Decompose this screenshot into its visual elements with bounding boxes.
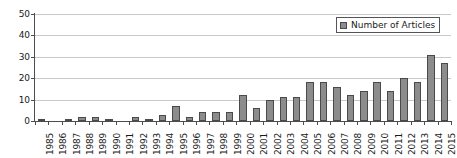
x-tick-label-1994: 1994 [166, 133, 175, 155]
bar-1998 [212, 112, 220, 121]
x-tick-label-2010: 2010 [381, 133, 390, 155]
bar-1989 [92, 117, 100, 121]
x-tick-mark-2014 [424, 122, 425, 125]
x-tick-label-2013: 2013 [421, 133, 430, 155]
x-tick-label-2006: 2006 [328, 133, 337, 155]
x-tick-label-2015: 2015 [448, 133, 457, 155]
bar-1997 [199, 112, 207, 121]
x-tick-mark-2001 [250, 122, 251, 125]
x-tick-label-1992: 1992 [140, 133, 149, 155]
x-tick-label-1999: 1999 [234, 133, 243, 155]
x-tick-label-2001: 2001 [260, 133, 269, 155]
bar-2012 [400, 78, 408, 121]
bar-1996 [186, 117, 194, 121]
x-tick-mark-1997 [196, 122, 197, 125]
y-tick-label-20: 20 [4, 74, 30, 83]
bar-1992 [132, 117, 140, 121]
y-axis-line [34, 13, 35, 122]
gridline-30 [35, 57, 451, 58]
x-tick-mark-1996 [183, 122, 184, 125]
bar-2008 [347, 95, 355, 121]
x-tick-mark-1995 [169, 122, 170, 125]
bar-chart: 01020304050 1985198619871988198919901991… [0, 0, 457, 158]
x-tick-mark-2015 [438, 122, 439, 125]
gridline-20 [35, 78, 451, 79]
x-tick-label-1993: 1993 [153, 133, 162, 155]
x-tick-mark-2003 [277, 122, 278, 125]
bar-2013 [414, 82, 422, 121]
y-tick-label-0: 0 [4, 117, 30, 126]
bar-2000 [239, 95, 247, 121]
x-tick-label-2014: 2014 [435, 133, 444, 155]
x-tick-mark-2009 [357, 122, 358, 125]
gridline-40 [35, 35, 451, 36]
bar-2009 [360, 91, 368, 121]
bar-2001 [253, 108, 261, 121]
x-tick-mark-2000 [236, 122, 237, 125]
x-tick-mark-2013 [411, 122, 412, 125]
x-tick-label-1989: 1989 [99, 133, 108, 155]
x-tick-mark-2010 [370, 122, 371, 125]
bar-1993 [145, 119, 153, 121]
legend-swatch-icon [340, 22, 347, 29]
x-tick-mark-1986 [48, 122, 49, 125]
bar-1994 [159, 115, 167, 121]
legend-label: Number of Articles [351, 21, 435, 30]
x-axis-line [34, 121, 452, 122]
x-tick-mark-1994 [156, 122, 157, 125]
x-tick-label-2011: 2011 [395, 133, 404, 155]
x-tick-mark-end [451, 122, 452, 125]
chart-legend: Number of Articles [336, 17, 440, 33]
x-tick-label-2009: 2009 [368, 133, 377, 155]
bar-1987 [65, 119, 73, 121]
bar-1990 [105, 119, 113, 121]
x-tick-label-2004: 2004 [301, 133, 310, 155]
bar-2004 [293, 97, 301, 121]
x-tick-mark-2006 [317, 122, 318, 125]
bar-2010 [373, 82, 381, 121]
x-tick-label-1985: 1985 [46, 133, 55, 155]
x-tick-label-1997: 1997 [207, 133, 216, 155]
gridline-50 [35, 14, 451, 15]
x-tick-label-2005: 2005 [314, 133, 323, 155]
x-tick-label-2002: 2002 [274, 133, 283, 155]
x-tick-label-1996: 1996 [193, 133, 202, 155]
x-tick-mark-1998 [209, 122, 210, 125]
bar-2006 [320, 82, 328, 121]
x-tick-mark-2002 [263, 122, 264, 125]
x-tick-label-1986: 1986 [59, 133, 68, 155]
x-tick-label-1998: 1998 [220, 133, 229, 155]
x-tick-label-2003: 2003 [287, 133, 296, 155]
x-tick-mark-1992 [129, 122, 130, 125]
y-tick-label-10: 10 [4, 96, 30, 105]
x-tick-mark-2007 [330, 122, 331, 125]
x-tick-label-1995: 1995 [180, 133, 189, 155]
bar-1985 [38, 119, 46, 121]
x-tick-label-2007: 2007 [341, 133, 350, 155]
x-tick-mark-1990 [102, 122, 103, 125]
y-axis-labels: 01020304050 [0, 0, 30, 158]
x-tick-label-1990: 1990 [113, 133, 122, 155]
x-tick-mark-2011 [384, 122, 385, 125]
x-tick-mark-1985 [35, 122, 36, 125]
x-tick-mark-1987 [62, 122, 63, 125]
x-tick-mark-1999 [223, 122, 224, 125]
bar-1999 [226, 112, 234, 121]
x-tick-label-2008: 2008 [354, 133, 363, 155]
bar-1995 [172, 106, 180, 121]
x-tick-mark-1991 [116, 122, 117, 125]
bar-2014 [427, 55, 435, 121]
x-tick-label-1988: 1988 [86, 133, 95, 155]
x-tick-mark-2005 [303, 122, 304, 125]
x-tick-label-2012: 2012 [408, 133, 417, 155]
bar-2015 [441, 63, 449, 121]
bar-2005 [306, 82, 314, 121]
x-tick-mark-2008 [344, 122, 345, 125]
x-tick-label-1991: 1991 [126, 133, 135, 155]
x-tick-mark-2012 [397, 122, 398, 125]
bar-2003 [280, 97, 288, 121]
y-tick-label-40: 40 [4, 31, 30, 40]
bar-2007 [333, 87, 341, 121]
x-tick-mark-1993 [142, 122, 143, 125]
x-tick-mark-1988 [75, 122, 76, 125]
